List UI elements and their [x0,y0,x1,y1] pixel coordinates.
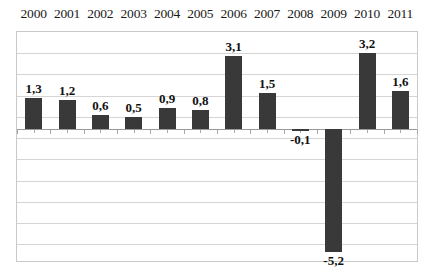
bar-chart: 2000200120022003200420052006200720082009… [0,0,434,272]
category-label-2004: 2004 [150,4,184,24]
axis-tick-10 [350,130,351,134]
gridline-6 [17,159,417,160]
category-label-2010: 2010 [350,4,384,24]
category-label-2002: 2002 [83,4,117,24]
bar-value-label-2005: 0,8 [178,94,222,108]
axis-tick-5 [184,130,185,134]
category-label-2005: 2005 [183,4,217,24]
bar-2010 [359,53,376,129]
axis-tick-mid-3 [134,130,135,133]
axis-tick-mid-4 [167,130,168,133]
bar-2007 [259,93,276,128]
axis-tick-mid-0 [34,130,35,133]
gridline-8 [17,202,417,203]
bar-value-label-2006: 3,1 [212,40,256,54]
axis-tick-0 [17,130,18,134]
category-label-2007: 2007 [250,4,284,24]
category-label-2000: 2000 [17,4,51,24]
axis-tick-4 [150,130,151,134]
bar-2008 [292,129,309,132]
axis-tick-mid-11 [400,130,401,133]
bar-2002 [92,115,109,129]
gridline-5 [17,138,417,139]
axis-tick-mid-6 [234,130,235,133]
bar-value-label-2010: 3,2 [345,37,389,51]
plot-area: 1,31,20,60,50,90,83,11,5-0,1-5,23,21,6 [16,31,418,262]
bar-2004 [159,108,176,129]
gridline-9 [17,223,417,224]
gridline-10 [17,244,417,245]
bar-value-label-2008: -0,1 [278,133,322,147]
axis-tick-12 [417,130,418,134]
axis-tick-mid-5 [200,130,201,133]
axis-tick-7 [250,130,251,134]
gridline-7 [17,181,417,182]
bar-2006 [225,56,242,129]
axis-tick-mid-10 [367,130,368,133]
bar-2009 [325,129,342,252]
category-axis: 2000200120022003200420052006200720082009… [16,4,418,28]
gridline-2 [17,74,417,75]
axis-tick-mid-1 [67,130,68,133]
gridline-4 [17,117,417,118]
axis-tick-mid-7 [267,130,268,133]
axis-tick-1 [50,130,51,134]
axis-tick-6 [217,130,218,134]
category-label-2008: 2008 [283,4,317,24]
bar-2001 [59,100,76,128]
axis-tick-2 [84,130,85,134]
bar-2003 [125,117,142,129]
bar-value-label-2001: 1,2 [45,84,89,98]
bar-2011 [392,91,409,129]
category-label-2001: 2001 [50,4,84,24]
bar-value-label-2011: 1,6 [378,75,422,89]
plot-inner: 1,31,20,60,50,90,83,11,5-0,1-5,23,21,6 [17,32,417,261]
axis-tick-3 [117,130,118,134]
bar-value-label-2007: 1,5 [245,77,289,91]
category-label-2009: 2009 [317,4,351,24]
category-label-2006: 2006 [217,4,251,24]
category-label-2011: 2011 [383,4,417,24]
category-label-2003: 2003 [117,4,151,24]
bar-2000 [25,98,42,129]
axis-tick-mid-2 [100,130,101,133]
bar-2005 [192,110,209,129]
axis-tick-11 [384,130,385,134]
bar-value-label-2009: -5,2 [312,254,356,268]
